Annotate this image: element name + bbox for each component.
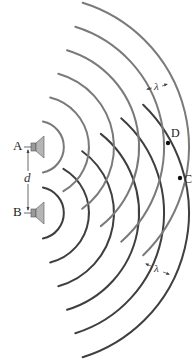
wavefront-arc <box>43 188 64 239</box>
wavefront-arc <box>67 134 139 310</box>
point-c-dot <box>178 176 182 180</box>
speaker-b-icon <box>24 202 44 224</box>
speaker-a-icon <box>24 136 44 158</box>
wavefront-arc <box>43 122 64 173</box>
point-c-label: C <box>184 173 192 185</box>
wavelength-label-bottom: λ <box>154 263 159 274</box>
point-d-dot <box>166 141 170 145</box>
wavefront-arc <box>67 50 139 226</box>
source-a-label: A <box>13 139 22 152</box>
wavefront-arc <box>83 105 189 358</box>
separation-label: d <box>23 171 32 184</box>
wavefronts-source-a <box>43 3 189 256</box>
wavefront-arc <box>50 169 89 263</box>
source-b-label: B <box>13 205 22 218</box>
wavelength-label-top: λ <box>154 81 159 92</box>
wavefront-arc <box>50 98 89 192</box>
point-d-label: D <box>171 127 180 139</box>
